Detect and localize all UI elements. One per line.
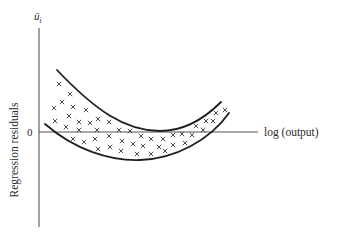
residual-point-cross [223, 108, 227, 112]
residual-point-cross [214, 111, 218, 115]
residual-point-cross [139, 134, 143, 138]
residual-point-cross [93, 137, 97, 141]
residual-point-cross [161, 137, 165, 141]
residual-point-cross [53, 119, 57, 123]
residual-point-cross [171, 143, 175, 147]
residual-point-cross [163, 149, 167, 153]
residual-point-cross [135, 152, 139, 156]
residual-point-cross [96, 147, 100, 151]
residual-point-cross [204, 119, 208, 123]
residual-point-cross [107, 120, 111, 124]
residual-point-cross [82, 140, 86, 144]
residual-point-cross [107, 134, 111, 138]
residual-point-cross [96, 117, 100, 121]
residual-point-cross [120, 139, 124, 143]
residual-point-cross [71, 137, 75, 141]
y-axis-label: Regression residuals [8, 102, 21, 197]
y-axis-symbol-subscript: i [40, 16, 42, 25]
residual-plot-figure: ûi 0 log (output) Regression residuals [0, 0, 339, 236]
zero-label: 0 [27, 126, 33, 138]
residual-point-cross [68, 92, 72, 96]
residual-point-cross [57, 82, 61, 86]
residual-point-cross [119, 149, 123, 153]
residual-point-cross [77, 120, 81, 124]
residual-point-cross [88, 121, 92, 125]
residual-point-cross [149, 152, 153, 156]
residual-point-cross [211, 119, 215, 123]
y-axis-symbol: ûi [34, 10, 42, 25]
residual-point-cross [171, 133, 175, 137]
residual-point-cross [60, 100, 64, 104]
residual-point-cross [71, 105, 75, 109]
residual-point-cross [149, 137, 153, 141]
upper-bound-curve [57, 70, 221, 131]
residual-point-cross [194, 124, 198, 128]
residual-point-cross [183, 141, 187, 145]
residual-point-cross [64, 125, 68, 129]
residual-plot-canvas: ûi 0 log (output) Regression residuals [0, 0, 339, 236]
residual-point-cross [141, 144, 145, 148]
residual-point-cross [157, 145, 161, 149]
lower-bound-curve [45, 113, 229, 160]
x-axis-label: log (output) [264, 126, 319, 139]
residual-point-cross [67, 114, 71, 118]
residual-point-cross [84, 108, 88, 112]
residual-point-cross [108, 145, 112, 149]
residual-point-cross [131, 142, 135, 146]
residual-point-cross [190, 133, 194, 137]
residual-point-cross [52, 106, 56, 110]
